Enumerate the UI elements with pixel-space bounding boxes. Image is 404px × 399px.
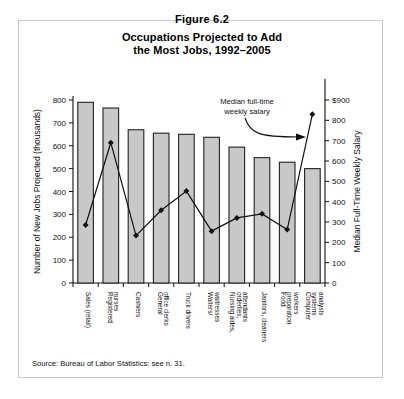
x-axis-label: office clerks <box>163 292 170 326</box>
left-tick-label: 300 <box>53 210 67 219</box>
x-axis-label: Cashiers <box>135 292 142 317</box>
left-tick-label: 600 <box>53 142 67 151</box>
salary-marker <box>309 111 315 117</box>
right-tick-label: 0 <box>332 279 337 288</box>
x-axis-label: Sales (retail) <box>84 292 92 328</box>
left-tick-label: 700 <box>53 119 67 128</box>
right-tick-label: 100 <box>332 259 346 268</box>
annotation-arrow-path <box>245 118 298 137</box>
x-axis-label: systems <box>310 292 318 315</box>
x-axis-label: Computer <box>304 292 312 321</box>
x-axis-label: Registered <box>106 292 114 323</box>
x-axis-label: Truck drivers <box>185 292 192 329</box>
annotation-line1: Median full-time <box>220 97 274 106</box>
annotation-line2: weekly salary <box>223 107 270 116</box>
salary-line <box>86 114 313 235</box>
right-tick-label: $900 <box>332 96 350 105</box>
right-tick-label: 500 <box>332 177 346 186</box>
x-axis-label: Janitors, cleaners <box>261 292 268 342</box>
x-axis-label: attendants <box>242 292 249 322</box>
x-axis-label: waitresses <box>214 291 221 322</box>
bar <box>103 108 119 283</box>
bar <box>305 169 321 283</box>
right-tick-label: 300 <box>332 218 346 227</box>
right-tick-label: 400 <box>332 198 346 207</box>
bar <box>179 134 195 283</box>
x-axis-label: Food <box>280 292 287 307</box>
left-axis-title: Number of New Jobs Projected (thousands) <box>32 109 42 274</box>
x-axis-label: workers <box>293 291 300 314</box>
source-note: Source: Bureau of Labor Statistics: see … <box>32 359 185 368</box>
left-tick-label: 400 <box>53 188 67 197</box>
left-tick-label: 200 <box>53 233 67 242</box>
right-tick-label: 600 <box>332 157 346 166</box>
right-tick-label: 800 <box>332 116 346 125</box>
bar <box>204 137 220 283</box>
left-tick-label: 500 <box>53 165 67 174</box>
right-tick-label: 200 <box>332 238 346 247</box>
chart-area: 0100200300400500600700800010020030040050… <box>0 0 404 399</box>
x-axis-label: Waiters/ <box>207 292 214 315</box>
chart-svg: 0100200300400500600700800010020030040050… <box>0 0 404 399</box>
bar <box>78 102 94 283</box>
left-tick-label: 800 <box>53 96 67 105</box>
bar <box>279 162 295 283</box>
x-axis-label: General <box>157 292 164 315</box>
right-axis-title: Median Full-Time Weekly Salary <box>352 130 362 253</box>
x-axis-label: orderlies, <box>236 292 243 319</box>
x-axis-label: analysts <box>317 292 325 315</box>
annotation-arrow-head <box>296 133 306 140</box>
bar <box>254 158 270 283</box>
x-axis-label: nurses <box>113 292 120 311</box>
left-tick-label: 0 <box>62 279 67 288</box>
right-tick-label: 700 <box>332 137 346 146</box>
left-tick-label: 100 <box>53 256 67 265</box>
x-axis-label: Nursing aides, <box>228 292 236 333</box>
x-axis-label: preparation <box>285 292 293 325</box>
bar <box>128 130 144 283</box>
